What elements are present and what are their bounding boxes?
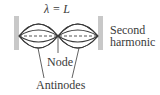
wavelength-label: λ = L <box>44 3 70 15</box>
left-fixed-end <box>14 16 19 50</box>
lower-envelope <box>19 36 98 48</box>
node-label: Node <box>47 56 73 68</box>
upper-envelope <box>19 24 98 36</box>
antinodes-label: Antinodes <box>36 79 85 91</box>
antinode-pointer-right <box>72 48 79 78</box>
right-fixed-end <box>98 16 103 50</box>
harmonic-label-line2: harmonic <box>110 36 155 48</box>
antinode-pointer-left <box>38 48 44 78</box>
